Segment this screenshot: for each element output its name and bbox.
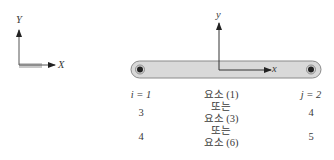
global-y-label: Y — [16, 14, 22, 26]
node-j-pin — [308, 67, 314, 73]
local-x-label: x — [272, 63, 277, 75]
global-x-label: X — [58, 59, 64, 71]
or-label: 또는 — [211, 101, 231, 113]
global-axes — [19, 30, 55, 68]
node-j-label: j = 2 — [301, 89, 322, 101]
or-label: 또는 — [211, 125, 231, 137]
node-i-label: 4 — [138, 131, 143, 143]
element-label: 요소 (6) — [204, 137, 239, 149]
node-i-label: i = 1 — [131, 89, 152, 101]
element-label: 요소 (1) — [204, 89, 239, 101]
node-j-label: 5 — [308, 131, 313, 143]
node-i-pin — [137, 67, 143, 73]
truss-element-diagram — [0, 0, 334, 160]
local-y-label: y — [216, 9, 221, 21]
node-j-label: 4 — [308, 107, 313, 119]
element-label: 요소 (3) — [204, 113, 239, 125]
node-i-label: 3 — [138, 107, 143, 119]
